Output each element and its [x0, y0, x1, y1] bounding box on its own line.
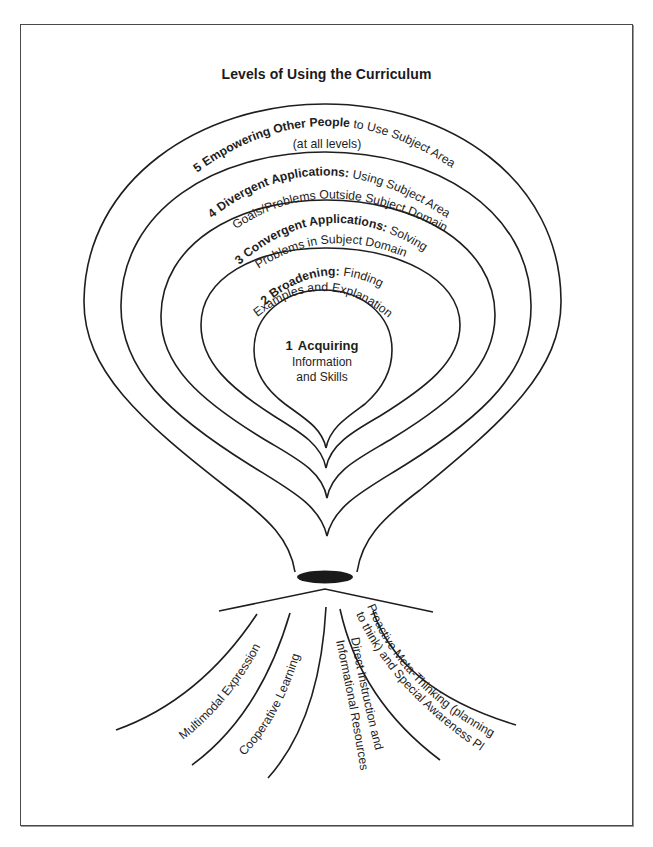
level-5-sublabel: (at all levels) [293, 137, 361, 151]
level-1-boundary [254, 290, 392, 448]
root-label-multimodal-expression: Multimodal Expression [176, 641, 263, 742]
curriculum-levels-diagram: 5Empowering Other People to Use Subject … [0, 0, 653, 847]
level-1-line1: Information [292, 355, 352, 369]
level-1-line2: and Skills [296, 370, 347, 384]
level-1-label: 1Acquiring [286, 338, 359, 353]
root-opening [297, 571, 353, 584]
root-label-special-awareness-plans: to think) and Special Awareness Plans [0, 0, 487, 754]
root-label-proactive-meta-thinking: Proactive Meta-Thinking (planning how [0, 0, 500, 742]
